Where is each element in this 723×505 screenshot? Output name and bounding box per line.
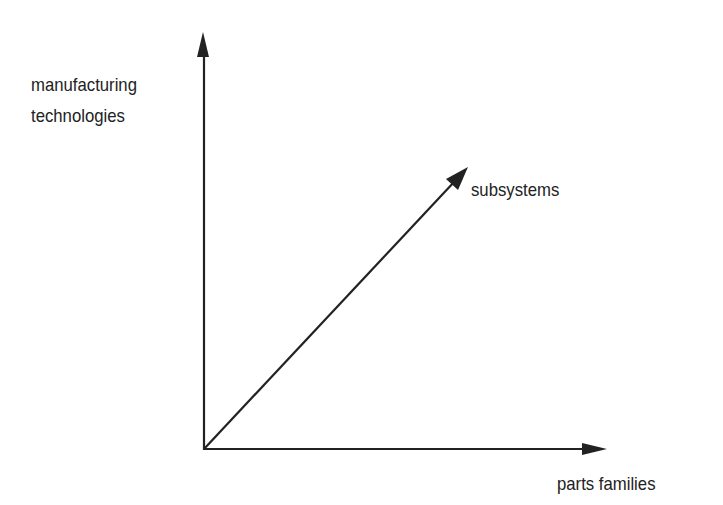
- vertical-arrowhead-icon: [197, 32, 209, 57]
- vertical-axis-label-line-2: technologies: [31, 105, 137, 127]
- vertical-axis-label-line-1: manufacturing: [31, 74, 137, 96]
- horizontal-arrowhead-icon: [582, 443, 607, 455]
- diagonal-axis-line: [204, 181, 455, 449]
- diagonal-axis-label: subsystems: [471, 179, 559, 201]
- horizontal-axis-label: parts families: [557, 473, 655, 495]
- vertical-axis-label: manufacturing technologies: [31, 74, 137, 127]
